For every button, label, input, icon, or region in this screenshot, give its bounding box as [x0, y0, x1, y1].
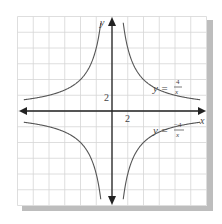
- y-axis-label: y: [99, 17, 105, 28]
- x-tick-label-2: 2: [125, 113, 130, 124]
- x-axis-label: x: [199, 115, 205, 126]
- svg-text:y =: y =: [152, 124, 168, 136]
- svg-text:4: 4: [176, 78, 180, 86]
- svg-text:−4: −4: [174, 121, 182, 129]
- svg-text:y =: y =: [152, 82, 168, 94]
- y-tick-label-2: 2: [104, 92, 109, 103]
- hyperbola-graph: y x 2 2 y = 4 x y = −4 x: [0, 0, 222, 224]
